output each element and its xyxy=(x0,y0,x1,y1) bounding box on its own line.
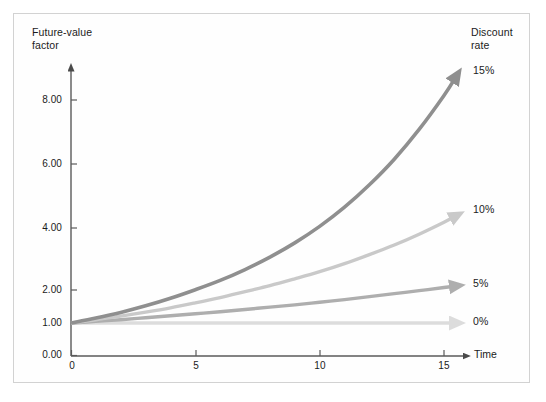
x-tick-label-15: 15 xyxy=(432,360,456,371)
figure-container: Future-value factor Discount rate Time xyxy=(0,0,546,402)
series-label-5pct: 5% xyxy=(473,277,488,289)
y-tick-label-1: 1.00 xyxy=(28,317,62,328)
x-axis-ticks xyxy=(72,350,445,356)
plot-area xyxy=(0,0,546,402)
y-tick-label-6: 6.00 xyxy=(28,158,62,169)
series-curve-5pct xyxy=(71,286,456,323)
series-label-10pct: 10% xyxy=(473,203,494,215)
series-label-15pct: 15% xyxy=(473,64,494,76)
x-tick-label-10: 10 xyxy=(308,360,332,371)
x-tick-label-5: 5 xyxy=(184,360,208,371)
y-tick-label-0: 0.00 xyxy=(28,349,62,360)
y-tick-label-8: 8.00 xyxy=(28,94,62,105)
y-tick-label-2: 2.00 xyxy=(28,284,62,295)
y-tick-label-4: 4.00 xyxy=(28,222,62,233)
x-tick-label-0: 0 xyxy=(60,360,84,371)
series-label-0pct: 0% xyxy=(473,315,488,327)
y-axis-ticks xyxy=(71,100,77,356)
